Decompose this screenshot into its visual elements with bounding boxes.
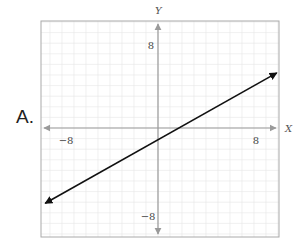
coordinate-plane: X Y −8 8 8 −8 (0, 0, 303, 239)
x-tick-neg8: −8 (59, 135, 74, 146)
x-axis-label: X (284, 123, 293, 134)
grid-lines (41, 21, 279, 237)
y-tick-neg8: −8 (141, 211, 156, 222)
x-tick-8: 8 (253, 135, 259, 146)
y-axis-label: Y (155, 5, 163, 16)
y-tick-8: 8 (148, 40, 154, 51)
plot-frame (41, 21, 279, 237)
